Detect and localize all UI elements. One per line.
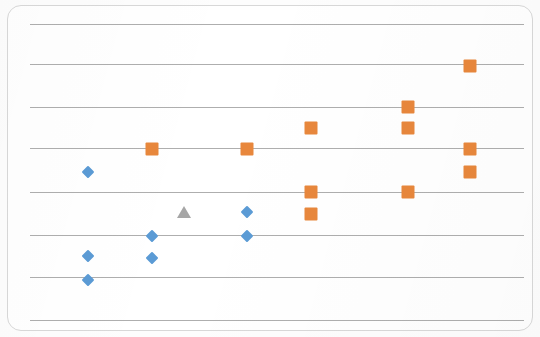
data-point-square [146, 143, 159, 156]
plot-area [0, 0, 540, 337]
data-point-square [305, 122, 318, 135]
gridline-4 [30, 148, 524, 149]
data-point-diamond [146, 252, 159, 265]
data-point-square [402, 122, 415, 135]
data-point-diamond [241, 230, 254, 243]
data-point-square [305, 186, 318, 199]
gridline-1 [30, 24, 524, 25]
data-point-diamond [241, 206, 254, 219]
data-point-square [464, 60, 477, 73]
gridline-2 [30, 64, 524, 65]
data-point-square [241, 143, 254, 156]
gridline-8 [30, 320, 524, 321]
data-point-diamond [146, 230, 159, 243]
gridline-7 [30, 277, 524, 278]
chart-screenshot [0, 0, 540, 337]
gridline-5 [30, 192, 524, 193]
data-point-diamond [82, 274, 95, 287]
gridline-6 [30, 235, 524, 236]
data-point-square [402, 101, 415, 114]
data-point-square [402, 186, 415, 199]
data-point-diamond [82, 166, 95, 179]
data-point-square [464, 143, 477, 156]
data-point-diamond [82, 250, 95, 263]
gridline-3 [30, 107, 524, 108]
data-point-square [464, 166, 477, 179]
data-point-triangle [177, 206, 191, 218]
data-point-square [305, 208, 318, 221]
